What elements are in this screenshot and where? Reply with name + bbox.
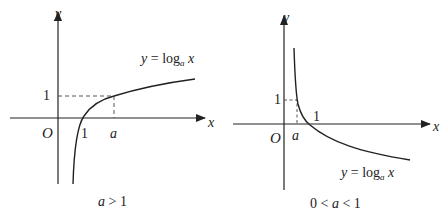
y-tick-one: 1 <box>43 88 50 103</box>
origin-label: O <box>42 125 53 141</box>
log-curve <box>73 79 195 184</box>
log-graphs: y x O 1 a 1 y = loga x a > 1 y x O a 1 1… <box>0 0 445 216</box>
x-tick-a: a <box>292 128 299 143</box>
x-tick-one: 1 <box>81 126 88 141</box>
origin-label: O <box>270 130 281 146</box>
y-tick-one: 1 <box>274 92 281 107</box>
condition-label: 0 < a < 1 <box>310 196 361 211</box>
condition-label: a > 1 <box>98 194 127 209</box>
graph-a-greater-than-1: y x O 1 a 1 y = loga x a > 1 <box>10 6 215 209</box>
x-tick-a: a <box>110 126 117 141</box>
x-axis-label: x <box>432 119 440 134</box>
function-label: y = loga x <box>339 165 395 182</box>
y-axis-label: y <box>281 10 290 25</box>
dashed-guide <box>284 100 297 124</box>
function-label: y = loga x <box>139 51 195 68</box>
y-axis-label: y <box>53 6 62 21</box>
x-axis-label: x <box>207 115 215 130</box>
graph-a-between-0-and-1: y x O a 1 1 y = loga x 0 < a < 1 <box>233 10 440 211</box>
log-curve <box>294 48 410 160</box>
x-tick-one: 1 <box>313 109 320 124</box>
